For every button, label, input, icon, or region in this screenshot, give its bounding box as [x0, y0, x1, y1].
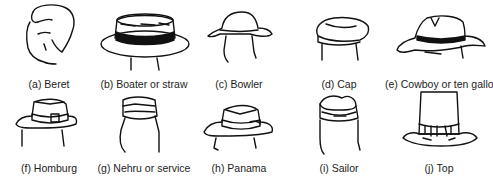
label-beret: (a) Beret	[0, 78, 98, 90]
label-nehru: (g) Nehru or service	[95, 162, 193, 174]
hat-item-nehru: (g) Nehru or service	[95, 90, 193, 180]
hat-item-beret: (a) Beret	[0, 0, 98, 90]
label-cap: (d) Cap	[290, 78, 388, 90]
label-homburg: (f) Homburg	[0, 162, 98, 174]
label-cowboy: (e) Cowboy or ten gallon	[385, 78, 493, 90]
hat-item-panama: (h) Panama	[190, 90, 288, 180]
beret-icon	[0, 0, 98, 78]
boater-hat-icon	[95, 0, 193, 78]
cowboy-hat-icon	[385, 0, 493, 78]
label-boater: (b) Boater or straw	[95, 78, 193, 90]
hat-item-homburg: (f) Homburg	[0, 90, 98, 180]
hat-item-top: (j) Top	[385, 90, 493, 180]
label-bowler: (c) Bowler	[190, 78, 288, 90]
panama-hat-icon	[190, 90, 288, 162]
label-top: (j) Top	[385, 162, 493, 174]
hat-item-cowboy: (e) Cowboy or ten gallon	[385, 0, 493, 90]
label-panama: (h) Panama	[190, 162, 288, 174]
bowler-hat-icon	[190, 0, 288, 78]
hat-item-cap: (d) Cap	[290, 0, 388, 90]
label-sailor: (i) Sailor	[290, 162, 388, 174]
homburg-hat-icon	[0, 90, 98, 162]
top-hat-icon	[385, 90, 493, 162]
nehru-cap-icon	[95, 90, 193, 162]
hat-item-bowler: (c) Bowler	[190, 0, 288, 90]
hat-item-boater: (b) Boater or straw	[95, 0, 193, 90]
hat-item-sailor: (i) Sailor	[290, 90, 388, 180]
cap-icon	[290, 0, 388, 78]
sailor-hat-icon	[290, 90, 388, 162]
